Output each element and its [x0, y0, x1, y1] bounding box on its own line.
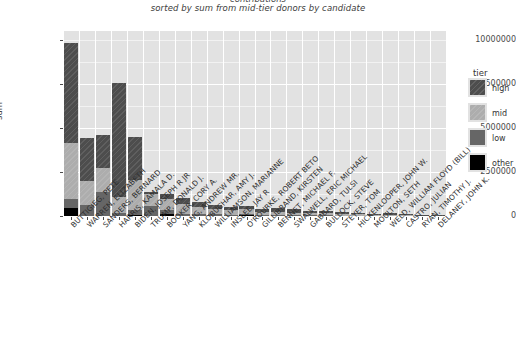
- y-axis-label: sum: [0, 102, 4, 120]
- bar-segment-high: [96, 135, 110, 168]
- legend-label-high: high: [492, 84, 509, 93]
- legend-swatch-high: [470, 80, 485, 95]
- gridline-vertical: [382, 31, 383, 216]
- legend-label-other: other: [492, 159, 513, 168]
- legend-label-low: low: [492, 134, 506, 143]
- y-tick-label: 10000000: [460, 35, 516, 44]
- bar-segment-high: [80, 138, 94, 180]
- gridline-vertical: [270, 31, 271, 216]
- y-tick-mark: [60, 216, 63, 217]
- legend-key-mid[interactable]: [468, 103, 487, 122]
- bar-chart: contributions sorted by sum from mid-tie…: [0, 0, 516, 349]
- bar[interactable]: [64, 43, 78, 216]
- legend-key-other[interactable]: [468, 153, 487, 172]
- legend-key-high[interactable]: [468, 78, 487, 97]
- legend-label-mid: mid: [492, 109, 507, 118]
- bar-segment-mid: [64, 143, 78, 199]
- bar-segment-low: [64, 199, 78, 208]
- chart-subtitle: sorted by sum from mid-tier donors by ca…: [0, 3, 516, 13]
- legend-swatch-mid: [470, 105, 485, 120]
- legend-title: tier: [473, 68, 487, 78]
- legend-swatch-other: [470, 155, 485, 170]
- legend-swatch-low: [470, 130, 485, 145]
- y-tick-label: 0: [460, 211, 516, 220]
- bar-segment-high: [64, 43, 78, 143]
- legend-key-low[interactable]: [468, 128, 487, 147]
